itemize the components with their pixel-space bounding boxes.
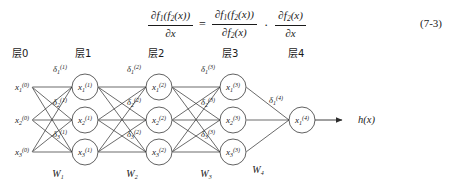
weight-matrix-label: W3 [200,168,211,180]
figure-page: ∂f1(f2(x)) ∂x = ∂f1(f2(x)) ∂f2(x) · ∂f2(… [0,0,454,190]
rhs2-denominator: ∂x [282,26,298,39]
math-label: x3(0) [14,147,29,158]
math-label: δ3(2) [127,129,141,140]
network-nodes: x1(0)x2(0)x3(0)x1(1)x2(1)x3(1)x1(2)x2(2)… [14,74,315,165]
math-label: δ1(2) [127,64,141,75]
output-label: h(x) [358,114,375,126]
network-edge [246,87,289,120]
layer-header: 层0 [12,48,28,59]
neural-network-diagram: x1(0)x2(0)x3(0)x1(1)x2(1)x3(1)x1(2)x2(2)… [0,45,454,190]
rhs2-numerator: ∂f2(x) [275,9,306,25]
math-label: δ1(1) [53,64,67,75]
network-svg: x1(0)x2(0)x3(0)x1(1)x2(1)x3(1)x1(2)x2(2)… [0,45,454,190]
rhs1-denominator: ∂f2(x) [219,25,250,40]
math-label: δ1(4) [269,95,283,106]
network-labels: δ1(1)δ2(1)δ3(1)δ1(2)δ2(2)δ3(2)δ1(3)δ2(3)… [12,48,375,180]
equation-number: (7-3) [420,17,442,29]
math-label: δ3(1) [53,129,67,140]
lhs-numerator: ∂f1(f2(x)) [148,9,193,25]
equation-lhs: ∂f1(f2(x)) ∂x [146,9,195,39]
layer-header: 层4 [288,48,304,59]
math-label: x1(0) [14,82,29,93]
weight-matrix-label: W4 [252,164,263,176]
layer-header: 层3 [222,48,238,59]
equation-rhs-term1: ∂f1(f2(x)) ∂f2(x) [210,8,259,40]
layer-header: 层2 [148,48,164,59]
weight-matrix-label: W1 [52,168,63,180]
layer-header: 层1 [75,48,91,59]
rhs2-fraction: ∂f2(x) ∂x [275,9,306,39]
equation-rhs-term2: ∂f2(x) ∂x [273,9,308,39]
equals-sign: = [199,17,206,32]
rhs1-fraction: ∂f1(f2(x)) ∂f2(x) [212,8,257,40]
math-label: δ2(2) [127,97,141,108]
multiply-sign: · [264,18,268,31]
equation-7-3: ∂f1(f2(x)) ∂x = ∂f1(f2(x)) ∂f2(x) · ∂f2(… [0,4,454,44]
rhs1-numerator: ∂f1(f2(x)) [212,8,257,24]
math-label: δ3(3) [201,129,215,140]
network-edge [246,120,289,152]
lhs-denominator: ∂x [162,26,178,39]
math-label: δ2(3) [201,97,215,108]
math-label: δ1(3) [201,64,215,75]
lhs-fraction: ∂f1(f2(x)) ∂x [148,9,193,39]
weight-matrix-label: W2 [126,168,137,180]
math-label: x2(0) [14,115,29,126]
